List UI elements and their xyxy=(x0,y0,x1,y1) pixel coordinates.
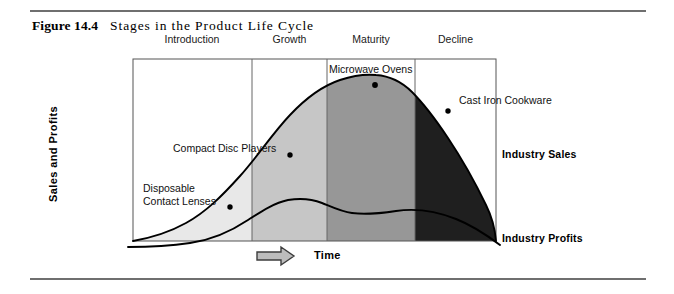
bottom-divider-rule xyxy=(30,278,646,280)
marker-microwave-ovens xyxy=(372,82,378,88)
annotation-cast-iron-cookware: Cast Iron Cookware xyxy=(459,94,552,107)
annotation-disposable-contact-lenses-line1: Disposable xyxy=(143,182,195,194)
annotation-compact-disc-players-label: Compact Disc Players xyxy=(173,142,276,154)
annotation-cast-iron-cookware-label: Cast Iron Cookware xyxy=(459,94,552,106)
time-arrow-icon xyxy=(257,247,294,265)
series-label-industry-sales: Industry Sales xyxy=(502,148,577,160)
annotation-disposable-contact-lenses-line2: Contact Lenses xyxy=(143,195,216,207)
figure-container: Figure 14.4Stages in the Product Life Cy… xyxy=(0,0,674,294)
annotation-microwave-ovens-label: Microwave Ovens xyxy=(329,63,412,75)
series-label-industry-profits-text: Industry Profits xyxy=(502,232,583,244)
series-label-industry-sales-text: Industry Sales xyxy=(502,148,577,160)
marker-cast-iron-cookware xyxy=(445,108,450,113)
annotation-disposable-contact-lenses: Disposable Contact Lenses xyxy=(143,182,253,207)
annotation-microwave-ovens: Microwave Ovens xyxy=(329,63,412,76)
x-axis-title: Time xyxy=(314,249,341,261)
annotation-compact-disc-players: Compact Disc Players xyxy=(173,142,276,155)
series-label-industry-profits: Industry Profits xyxy=(502,232,583,244)
marker-compact-disc-players xyxy=(287,152,292,157)
